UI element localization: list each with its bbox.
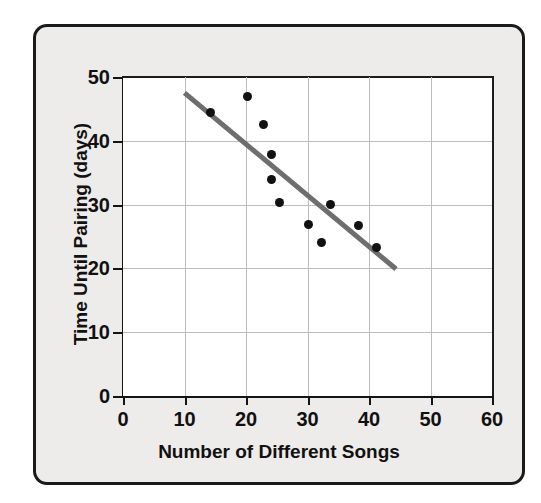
x-axis-tick	[123, 396, 125, 405]
x-axis-tick-label: 50	[411, 409, 451, 429]
plot-frame-right	[492, 76, 494, 396]
data-point	[267, 175, 276, 184]
data-point	[372, 243, 381, 252]
trend-line	[123, 77, 492, 396]
y-axis-tick	[113, 141, 122, 143]
y-axis-tick	[113, 332, 122, 334]
x-axis-tick	[185, 396, 187, 405]
x-axis-tick-label: 30	[288, 409, 328, 429]
data-point	[267, 150, 276, 159]
x-axis-tick-label: 0	[103, 409, 143, 429]
x-axis-tick-label: 10	[165, 409, 205, 429]
x-axis-tick-label: 60	[472, 409, 512, 429]
chart-page: 01020304050 0102030405060 Time Until Pai…	[0, 0, 541, 503]
x-axis-tick	[431, 396, 433, 405]
y-axis-title: Time Until Pairing (days)	[70, 99, 92, 369]
plot-area	[123, 77, 492, 396]
x-axis-tick	[246, 396, 248, 405]
x-axis-tick-label: 20	[226, 409, 266, 429]
x-axis-tick	[369, 396, 371, 405]
y-axis-tick	[113, 268, 122, 270]
y-axis-tick-label: 50	[70, 67, 110, 87]
x-axis-tick	[308, 396, 310, 405]
x-axis-tick	[492, 396, 494, 405]
data-point	[206, 108, 215, 117]
x-axis-tick-label: 40	[349, 409, 389, 429]
y-axis-tick	[113, 396, 122, 398]
y-axis-tick-label: 0	[70, 386, 110, 406]
chart-card: 01020304050 0102030405060 Time Until Pai…	[33, 24, 525, 485]
y-axis-tick	[113, 77, 122, 79]
x-axis-title: Number of Different Songs	[36, 441, 522, 463]
y-axis-tick	[113, 205, 122, 207]
